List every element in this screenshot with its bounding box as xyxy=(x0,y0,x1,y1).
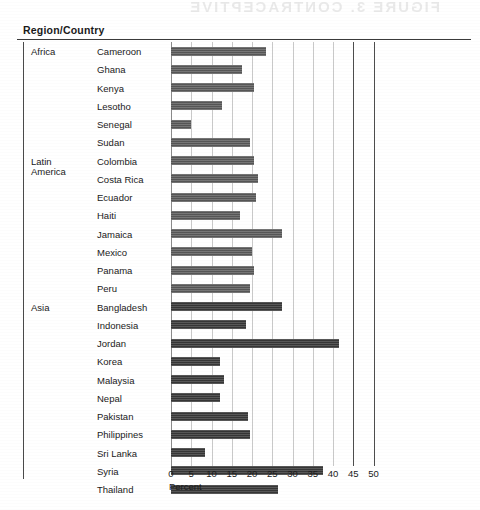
country-label: Jamaica xyxy=(97,229,132,241)
chart-row: Costa Rica xyxy=(0,172,480,190)
country-label: Indonesia xyxy=(97,320,138,332)
country-label: Cameroon xyxy=(97,46,141,58)
country-label: Thailand xyxy=(97,484,133,496)
country-label: Colombia xyxy=(97,156,137,168)
bar xyxy=(171,138,250,147)
chart-row: Pakistan xyxy=(0,409,480,427)
region-label: Africa xyxy=(31,46,55,58)
x-tick-40: 40 xyxy=(328,468,339,479)
chart-row: Jordan xyxy=(0,336,480,354)
x-tick-20: 20 xyxy=(247,468,258,479)
bar xyxy=(171,101,222,110)
country-label: Lesotho xyxy=(97,101,131,113)
bar xyxy=(171,393,220,402)
country-label: Philippines xyxy=(97,429,143,441)
chart-row: Korea xyxy=(0,354,480,372)
country-label: Bangladesh xyxy=(97,302,147,314)
chart-row: Philippines xyxy=(0,427,480,445)
bar xyxy=(171,156,254,165)
x-tick-45: 45 xyxy=(348,468,359,479)
country-label: Senegal xyxy=(97,119,132,131)
x-tick-30: 30 xyxy=(287,468,298,479)
bar xyxy=(171,65,242,74)
x-tick-25: 25 xyxy=(267,468,278,479)
bar-chart: Region/Country AfricaCameroonGhanaKenyaL… xyxy=(0,0,480,510)
chart-row: AfricaCameroon xyxy=(0,44,480,62)
bar xyxy=(171,430,250,439)
country-label: Syria xyxy=(97,466,119,478)
bar xyxy=(171,174,258,183)
x-tick-35: 35 xyxy=(307,468,318,479)
chart-row: Ghana xyxy=(0,62,480,80)
bar xyxy=(171,412,248,421)
country-label: Costa Rica xyxy=(97,174,143,186)
chart-row: Syria xyxy=(0,464,480,482)
bar xyxy=(171,320,246,329)
country-label: Nepal xyxy=(97,393,122,405)
bar xyxy=(171,357,220,366)
country-label: Jordan xyxy=(97,338,126,350)
country-label: Ghana xyxy=(97,64,126,76)
bar xyxy=(171,266,254,275)
country-label: Sri Lanka xyxy=(97,448,137,460)
chart-row: Lesotho xyxy=(0,99,480,117)
country-label: Ecuador xyxy=(97,192,132,204)
x-axis-title: Percent xyxy=(169,481,202,492)
chart-row: Peru xyxy=(0,281,480,299)
country-label: Korea xyxy=(97,356,122,368)
chart-row: Ecuador xyxy=(0,190,480,208)
x-tick-15: 15 xyxy=(226,468,237,479)
chart-row: Mexico xyxy=(0,245,480,263)
column-header-region-country: Region/Country xyxy=(23,24,105,36)
chart-row: Panama xyxy=(0,263,480,281)
country-label: Kenya xyxy=(97,83,124,95)
chart-row: Kenya xyxy=(0,81,480,99)
chart-row: Thailand xyxy=(0,482,480,500)
x-tick-10: 10 xyxy=(206,468,217,479)
bar xyxy=(171,120,191,129)
country-label: Pakistan xyxy=(97,411,133,423)
bar xyxy=(171,302,282,311)
country-label: Malaysia xyxy=(97,375,135,387)
country-label: Sudan xyxy=(97,137,124,149)
x-tick-5: 5 xyxy=(189,468,194,479)
bar xyxy=(171,284,250,293)
country-label: Haiti xyxy=(97,210,116,222)
bar xyxy=(171,247,252,256)
x-tick-50: 50 xyxy=(368,468,379,479)
chart-row: Haiti xyxy=(0,208,480,226)
bar xyxy=(171,339,339,348)
bar xyxy=(171,448,205,457)
chart-row: Indonesia xyxy=(0,318,480,336)
country-label: Peru xyxy=(97,283,117,295)
bar xyxy=(171,47,266,56)
region-label: Asia xyxy=(31,302,49,314)
chart-row: Senegal xyxy=(0,117,480,135)
chart-row: Sudan xyxy=(0,135,480,153)
country-label: Mexico xyxy=(97,247,127,259)
bar xyxy=(171,83,254,92)
chart-row: AsiaBangladesh xyxy=(0,300,480,318)
bar xyxy=(171,229,282,238)
bar xyxy=(171,375,224,384)
country-label: Panama xyxy=(97,265,132,277)
header-divider-rule xyxy=(17,39,471,40)
chart-row: Nepal xyxy=(0,391,480,409)
bar xyxy=(171,211,240,220)
chart-row: Sri Lanka xyxy=(0,446,480,464)
chart-row: Malaysia xyxy=(0,373,480,391)
chart-row: LatinAmericaColombia xyxy=(0,154,480,172)
chart-row: Jamaica xyxy=(0,227,480,245)
bar xyxy=(171,193,256,202)
x-tick-0: 0 xyxy=(168,468,173,479)
